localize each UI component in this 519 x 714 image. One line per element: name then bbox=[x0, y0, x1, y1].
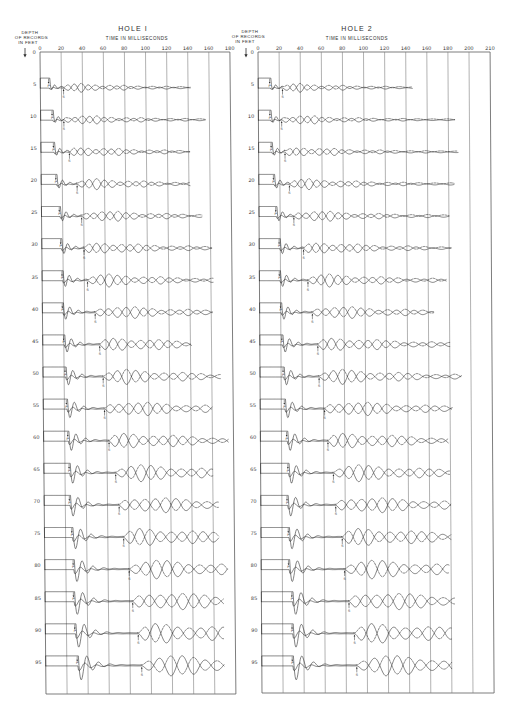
s-arrival-marker: S bbox=[62, 89, 65, 99]
s-arrival-marker: S bbox=[318, 378, 321, 388]
s-wave-trace bbox=[41, 116, 206, 124]
seismic-record: PS bbox=[259, 142, 459, 163]
seismic-record: PS bbox=[42, 271, 213, 292]
s-arrival-label: S bbox=[123, 545, 126, 549]
p-wave-trace bbox=[259, 271, 307, 287]
s-arrow-head-icon bbox=[102, 378, 104, 380]
s-arrival-marker: S bbox=[353, 635, 356, 645]
seismic-record: PS bbox=[260, 335, 450, 356]
p-wave-trace bbox=[261, 528, 342, 549]
depth-tick-label: 25 bbox=[249, 209, 255, 215]
depth-tick-label: 75 bbox=[34, 530, 40, 536]
p-wave-trace-coda bbox=[312, 307, 434, 317]
depth-tick-label: 75 bbox=[251, 530, 257, 536]
seismic-record: PS bbox=[261, 592, 454, 615]
s-arrival-label: S bbox=[356, 673, 359, 677]
p-wave-trace-coda bbox=[303, 244, 451, 253]
seismic-record: PS bbox=[262, 624, 452, 647]
time-tick-label: 140 bbox=[401, 45, 411, 51]
depth-tick-label: 90 bbox=[35, 627, 41, 633]
depth-tick-label: 5 bbox=[33, 81, 36, 87]
s-arrow-head-icon bbox=[341, 539, 343, 541]
s-arrival-label: S bbox=[353, 641, 356, 645]
s-arrival-marker: S bbox=[68, 153, 71, 163]
p-wave-trace bbox=[45, 592, 132, 615]
depth-tick-label: 95 bbox=[251, 659, 257, 665]
seismic-record: PS bbox=[42, 239, 212, 260]
s-arrival-label: S bbox=[341, 545, 344, 549]
s-arrow-head-icon bbox=[289, 185, 291, 187]
depth-axis-label-line-3: IN FEET bbox=[18, 40, 38, 45]
s-arrival-marker: S bbox=[281, 89, 284, 99]
p-wave-trace-coda bbox=[335, 498, 451, 511]
depth-tick-label: 45 bbox=[32, 338, 38, 344]
s-arrow-head-icon bbox=[63, 89, 65, 91]
p-wave-trace-coda bbox=[319, 369, 462, 382]
depth-tick-label: 10 bbox=[248, 113, 254, 119]
s-arrival-marker: S bbox=[99, 346, 102, 356]
seismic-record: PS bbox=[260, 367, 462, 388]
depth-tick-label: 60 bbox=[250, 434, 256, 440]
s-arrival-label: S bbox=[323, 416, 326, 420]
s-arrival-label: S bbox=[128, 577, 131, 581]
s-arrival-marker: S bbox=[94, 314, 97, 324]
time-tick-label: 160 bbox=[422, 45, 432, 51]
time-gridline bbox=[406, 52, 410, 693]
seismic-record: PS bbox=[46, 656, 225, 680]
p-wave-trace bbox=[41, 142, 69, 155]
p-wave-trace bbox=[42, 303, 94, 319]
seismic-record: PS bbox=[259, 207, 449, 228]
s-arrival-label: S bbox=[284, 159, 287, 163]
time-tick-label: 80 bbox=[121, 45, 127, 51]
s-wave-trace bbox=[260, 370, 462, 384]
s-wave-trace bbox=[45, 624, 223, 643]
s-arrow-head-icon bbox=[335, 506, 337, 508]
hole-2-time-axis-label: TIME IN MILLISECONDS bbox=[326, 36, 388, 41]
seismic-record: PS bbox=[261, 463, 450, 484]
s-arrow-head-icon bbox=[344, 571, 346, 573]
time-gridline bbox=[321, 52, 325, 693]
p-wave-trace bbox=[44, 528, 123, 549]
s-arrow-head-icon bbox=[104, 410, 106, 412]
s-arrival-label: S bbox=[348, 609, 351, 613]
s-arrow-head-icon bbox=[99, 346, 101, 348]
seismic-record: PS bbox=[260, 399, 452, 420]
seismic-record: PS bbox=[45, 624, 224, 647]
time-tick-label: 20 bbox=[58, 45, 64, 51]
seismic-record: PS bbox=[259, 271, 446, 292]
s-arrow-head-icon bbox=[69, 153, 71, 155]
s-arrival-label: S bbox=[76, 191, 79, 195]
time-tick-label: 40 bbox=[297, 45, 303, 51]
p-wave-trace bbox=[41, 174, 76, 188]
seismic-record: PS bbox=[42, 303, 212, 324]
s-wave-trace bbox=[40, 84, 190, 92]
s-arrival-label: S bbox=[281, 127, 284, 131]
s-arrow-head-icon bbox=[327, 442, 329, 444]
s-arrival-marker: S bbox=[323, 410, 326, 420]
time-tick-label: 100 bbox=[141, 45, 151, 51]
depth-tick-label: 10 bbox=[30, 113, 36, 119]
depth-tick-label: 0 bbox=[251, 49, 254, 55]
s-arrival-marker: S bbox=[123, 539, 126, 549]
time-tick-label: 160 bbox=[204, 45, 214, 51]
seismic-record: PS bbox=[41, 110, 206, 131]
s-arrow-head-icon bbox=[118, 506, 120, 508]
s-arrival-marker: S bbox=[118, 506, 121, 516]
depth-tick-label: 35 bbox=[249, 274, 255, 280]
s-arrow-head-icon bbox=[348, 603, 350, 605]
depth-tick-label: 5 bbox=[251, 81, 254, 87]
depth-tick-label: 70 bbox=[250, 498, 256, 504]
s-wave-trace bbox=[258, 116, 454, 124]
s-arrow-head-icon bbox=[81, 218, 83, 220]
seismic-record: PS bbox=[258, 78, 412, 99]
time-tick-label: 180 bbox=[443, 45, 453, 51]
s-arrow-head-icon bbox=[317, 346, 319, 348]
p-wave-trace bbox=[43, 399, 104, 417]
hole-2-plot: 0204060801001201401601802002100510152025… bbox=[248, 45, 499, 693]
time-gridline bbox=[364, 52, 368, 693]
s-arrow-head-icon bbox=[83, 250, 85, 252]
s-arrival-label: S bbox=[68, 159, 71, 163]
s-arrow-head-icon bbox=[281, 121, 283, 123]
s-arrow-head-icon bbox=[333, 474, 335, 476]
time-tick-label: 40 bbox=[79, 45, 85, 51]
